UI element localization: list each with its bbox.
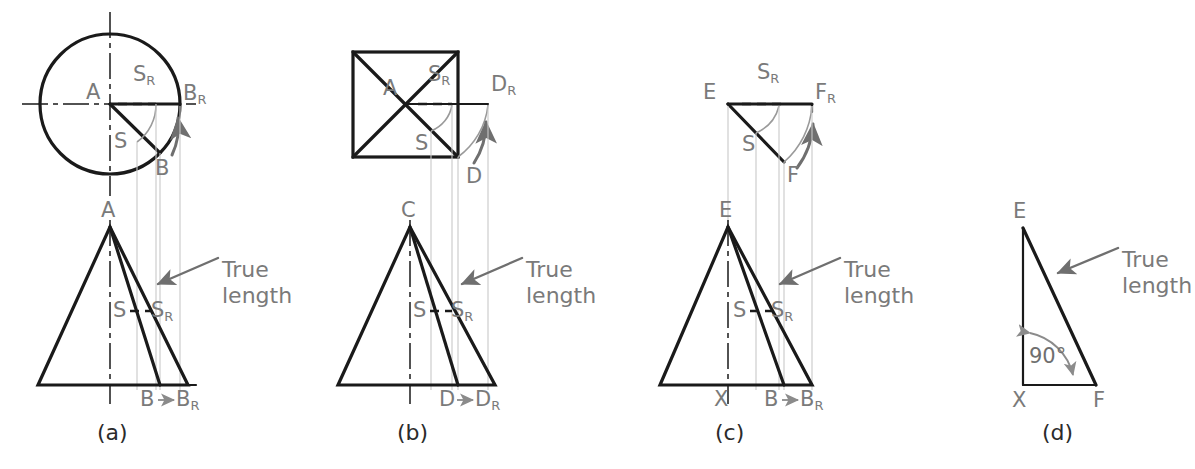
label-b-front-c: B xyxy=(764,389,778,410)
true-length-callout-d xyxy=(1058,248,1118,273)
label-apex-center-b: A xyxy=(383,78,397,99)
label-s-rotated-front-a: SR xyxy=(151,300,173,321)
label-right-angle-d: 90° xyxy=(1029,346,1066,367)
caption-b: (b) xyxy=(397,422,428,444)
label-e-vertex-d: E xyxy=(1013,201,1026,222)
caption-c: (c) xyxy=(715,422,744,444)
true-length-callout-c xyxy=(780,258,840,284)
label-e-top-c: E xyxy=(703,82,716,103)
annotation-true-length-d: True length xyxy=(1122,247,1195,299)
label-x-front-c: X xyxy=(714,389,728,410)
true-length-callout-b xyxy=(462,258,522,284)
part-b-front-view xyxy=(338,220,522,404)
label-x-vertex-d: X xyxy=(1012,390,1026,411)
caption-d: (d) xyxy=(1042,422,1073,444)
caption-a: (a) xyxy=(97,422,128,444)
label-s-rotated-top-a: SR xyxy=(133,64,155,85)
part-a-front-view xyxy=(38,220,218,404)
label-s-rotated-front-b: SR xyxy=(451,300,473,321)
label-d-rotated-front-b: DR xyxy=(475,389,500,410)
label-s-front-b: S xyxy=(413,300,426,321)
rotation-arc-s-c xyxy=(756,106,779,133)
rotation-arc-f-c xyxy=(784,106,812,162)
label-d-front-b: D xyxy=(439,389,455,410)
label-s-top-a: S xyxy=(114,131,127,152)
part-b-top-view xyxy=(353,52,488,390)
label-s-top-c: S xyxy=(742,134,755,155)
rotation-arc-s-b xyxy=(431,105,452,131)
label-apex-center-a: A xyxy=(86,82,100,103)
label-f-rotated-top-c: FR xyxy=(815,82,836,103)
label-apex-front-b: C xyxy=(401,200,416,221)
label-b-rotated-top-a: BR xyxy=(183,83,206,104)
label-b-top-a: B xyxy=(155,158,169,179)
label-b-front-a: B xyxy=(140,389,154,410)
label-f-vertex-d: F xyxy=(1093,390,1105,411)
true-length-callout-a xyxy=(158,258,218,284)
label-d-rotated-top-b: DR xyxy=(491,74,516,95)
annotation-true-length-c: True length xyxy=(844,257,954,309)
label-s-front-a: S xyxy=(113,300,126,321)
rotation-arrow-f-c xyxy=(797,124,813,168)
rotation-arc-d-b xyxy=(458,105,488,157)
annotation-true-length-b: True length xyxy=(526,257,636,309)
label-d-top-b: D xyxy=(466,166,482,187)
rotation-arc-s-a xyxy=(137,104,156,142)
label-f-top-c: F xyxy=(787,165,799,186)
label-b-rotated-front-c: BR xyxy=(800,389,823,410)
label-s-top-b: S xyxy=(415,133,428,154)
label-b-rotated-front-a: BR xyxy=(176,389,199,410)
annotation-true-length-a: True length xyxy=(222,257,332,309)
part-c-front-view xyxy=(660,220,840,404)
label-s-rotated-front-c: SR xyxy=(771,300,793,321)
label-s-rotated-top-b: SR xyxy=(428,64,450,85)
label-apex-front-a: A xyxy=(101,200,115,221)
label-apex-front-c: E xyxy=(719,200,732,221)
label-s-front-c: S xyxy=(733,300,746,321)
rotation-arrow-d-b xyxy=(474,122,486,163)
label-s-rotated-top-c: SR xyxy=(757,62,779,83)
